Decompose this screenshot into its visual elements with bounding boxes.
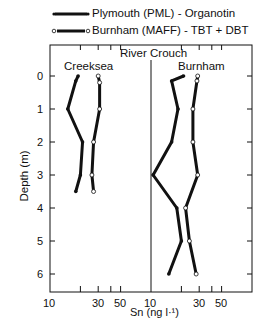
legend-glyph-plymouth: [52, 12, 89, 15]
y-tick-2: 2: [37, 136, 43, 148]
legend-glyph-burnham: [52, 29, 90, 33]
x-tick-10-right: 10: [144, 297, 156, 309]
series-burnham-creeksea: [90, 74, 102, 194]
y-axis-label: Depth (m): [18, 146, 30, 206]
panel-label-burnham: Burnham: [178, 60, 225, 72]
series-plymouth-burnham: [151, 74, 185, 276]
x-tick-30-right: 30: [193, 297, 205, 309]
x-tick-50-right: 50: [215, 297, 227, 309]
chart-title: River Crouch: [120, 47, 187, 59]
y-tick-4: 4: [37, 202, 43, 214]
y-tick-5: 5: [37, 235, 43, 247]
series-burnham-burnham: [184, 74, 200, 276]
panel-label-creeksea: Creeksea: [64, 60, 113, 72]
y-tick-0: 0: [37, 70, 43, 82]
x-tick-10-left: 10: [43, 297, 55, 309]
series-plymouth-creeksea: [66, 74, 84, 193]
data-series: [66, 74, 200, 276]
x-tick-50-left: 50: [114, 297, 126, 309]
legend-label: Burnham (MAFF) - TBT + DBT: [92, 22, 248, 39]
y-tick-1: 1: [37, 103, 43, 115]
x-tick-30-left: 30: [92, 297, 104, 309]
legend-label: Plymouth (PML) - Organotin: [92, 5, 235, 22]
y-tick-3: 3: [37, 169, 43, 181]
y-tick-6: 6: [37, 268, 43, 280]
